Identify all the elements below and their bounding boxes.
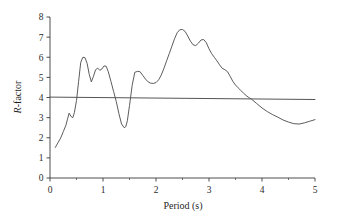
y-tick-label: 4 bbox=[39, 93, 44, 103]
x-tick-label: 1 bbox=[101, 185, 106, 195]
y-tick-label: 2 bbox=[39, 133, 44, 143]
y-tick-label: 5 bbox=[39, 73, 44, 83]
y-tick-label: 7 bbox=[39, 33, 44, 43]
y-axis-title: R-factor bbox=[12, 80, 23, 114]
chart-figure: 012345678012345 Period (s) R-factor bbox=[0, 0, 340, 223]
x-axis-title: Period (s) bbox=[163, 200, 202, 212]
y-tick-label: 3 bbox=[39, 113, 44, 123]
y-tick-label: 0 bbox=[39, 173, 44, 183]
x-tick-label: 0 bbox=[48, 185, 53, 195]
x-tick-label: 3 bbox=[207, 185, 212, 195]
x-tick-label: 5 bbox=[313, 185, 318, 195]
y-axis-title-rest-part: -factor bbox=[12, 80, 23, 107]
y-axis-title-italic-part: R bbox=[12, 107, 23, 114]
x-tick-label: 2 bbox=[154, 185, 159, 195]
y-tick-label: 1 bbox=[39, 153, 44, 163]
r-factor-line-chart: 012345678012345 Period (s) R-factor bbox=[0, 0, 340, 223]
y-tick-label: 8 bbox=[39, 12, 44, 22]
y-tick-label: 6 bbox=[39, 53, 44, 63]
x-tick-label: 4 bbox=[260, 185, 265, 195]
